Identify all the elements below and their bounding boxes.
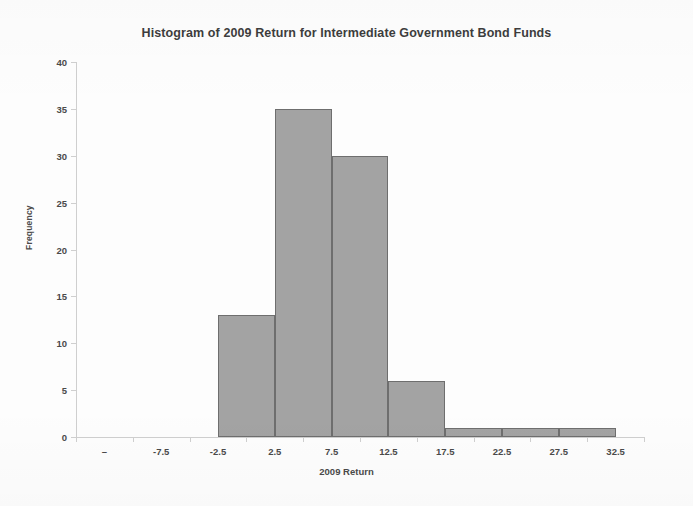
x-axis-tick — [360, 437, 361, 442]
x-axis-tick-label: 17.5 — [436, 446, 455, 457]
x-axis-title: 2009 Return — [0, 466, 693, 477]
histogram-chart: Histogram of 2009 Return for Intermediat… — [0, 0, 693, 506]
x-axis-tick-label: – — [102, 446, 107, 457]
x-axis-tick-label: 7.5 — [325, 446, 338, 457]
x-axis-tick-label: 27.5 — [550, 446, 569, 457]
histogram-bar — [332, 156, 389, 437]
x-axis-tick — [246, 437, 247, 442]
x-axis-tick — [417, 437, 418, 442]
histogram-bar — [388, 381, 445, 437]
x-axis-tick-label: 32.5 — [606, 446, 625, 457]
x-axis-tick — [303, 437, 304, 442]
x-axis-tick — [190, 437, 191, 442]
y-axis-tick-label: 30 — [56, 150, 67, 161]
x-axis-tick-label: 22.5 — [493, 446, 512, 457]
histogram-bar — [559, 428, 616, 437]
y-axis-tick-label: 15 — [56, 291, 67, 302]
y-axis-tick-label: 20 — [56, 244, 67, 255]
y-axis-tick-label: 25 — [56, 197, 67, 208]
histogram-bar — [218, 315, 275, 437]
x-axis-tick — [530, 437, 531, 442]
y-axis-tick-label: 10 — [56, 338, 67, 349]
y-axis-title: Frequency — [24, 205, 34, 250]
histogram-bar — [275, 109, 332, 437]
x-axis-tick — [644, 437, 645, 442]
plot-area: 0510152025303540 –-7.5-2.52.57.512.517.5… — [76, 62, 644, 437]
y-axis-tick-label: 35 — [56, 103, 67, 114]
x-axis-tick-label: -7.5 — [153, 446, 169, 457]
x-axis-tick — [587, 437, 588, 442]
x-axis-tick-label: 12.5 — [379, 446, 398, 457]
chart-title: Histogram of 2009 Return for Intermediat… — [0, 26, 693, 40]
x-axis-tick — [133, 437, 134, 442]
x-axis-tick-label: 2.5 — [268, 446, 281, 457]
bars-layer — [76, 62, 644, 437]
x-axis-tick-label: -2.5 — [210, 446, 226, 457]
y-axis-tick-label: 5 — [62, 385, 67, 396]
x-axis-tick — [474, 437, 475, 442]
x-axis-tick — [76, 437, 77, 442]
y-axis-tick-label: 0 — [62, 432, 67, 443]
y-axis-tick-label: 40 — [56, 57, 67, 68]
histogram-bar — [502, 428, 559, 437]
histogram-bar — [445, 428, 502, 437]
